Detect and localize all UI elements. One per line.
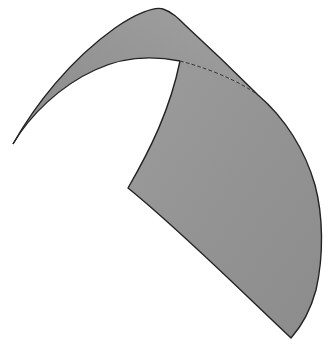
figure-canvas — [0, 0, 331, 347]
surface-figure — [0, 0, 331, 347]
flap-lower-edge — [13, 58, 180, 144]
surface-main-sheet — [128, 61, 322, 338]
